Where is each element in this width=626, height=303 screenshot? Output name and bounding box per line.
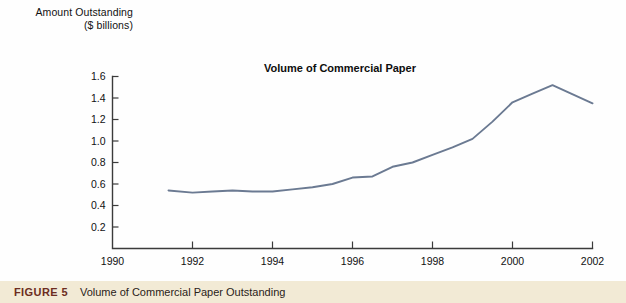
y-tick-label: 1.2 bbox=[91, 113, 106, 125]
y-tick-label: 1.0 bbox=[91, 135, 106, 147]
y-axis-ticks: 0.20.40.60.81.01.21.41.6 bbox=[91, 70, 119, 233]
chart-title: Volume of Commercial Paper bbox=[264, 62, 417, 74]
series-line-commercial-paper bbox=[169, 85, 593, 193]
x-tick-label: 1990 bbox=[101, 255, 125, 267]
figure-caption-bar: FIGURE 5 Volume of Commercial Paper Outs… bbox=[0, 281, 626, 303]
x-tick-label: 1994 bbox=[261, 255, 285, 267]
x-tick-label: 1998 bbox=[421, 255, 445, 267]
x-tick-label: 1996 bbox=[341, 255, 365, 267]
x-tick-label: 2000 bbox=[501, 255, 525, 267]
axis-spine bbox=[113, 77, 593, 249]
caption-accent-bar bbox=[0, 281, 14, 303]
y-tick-label: 0.8 bbox=[91, 156, 106, 168]
x-tick-label: 1992 bbox=[181, 255, 205, 267]
y-tick-label: 0.6 bbox=[91, 178, 106, 190]
x-axis-ticks: 1990199219941996199820002002 bbox=[101, 242, 605, 267]
y-tick-label: 0.4 bbox=[91, 199, 106, 211]
chart-axes bbox=[113, 77, 593, 249]
data-series-group bbox=[169, 85, 593, 193]
y-tick-label: 1.4 bbox=[91, 92, 106, 104]
figure-container: Amount Outstanding ($ billions) 0.20.40.… bbox=[0, 0, 626, 303]
line-chart: 0.20.40.60.81.01.21.41.6 199019921994199… bbox=[0, 0, 626, 278]
y-tick-label: 0.2 bbox=[91, 221, 106, 233]
figure-caption-title: Volume of Commercial Paper Outstanding bbox=[80, 286, 285, 298]
figure-number-label: FIGURE 5 bbox=[14, 286, 68, 298]
y-tick-label: 1.6 bbox=[91, 70, 106, 82]
x-tick-label: 2002 bbox=[581, 255, 605, 267]
